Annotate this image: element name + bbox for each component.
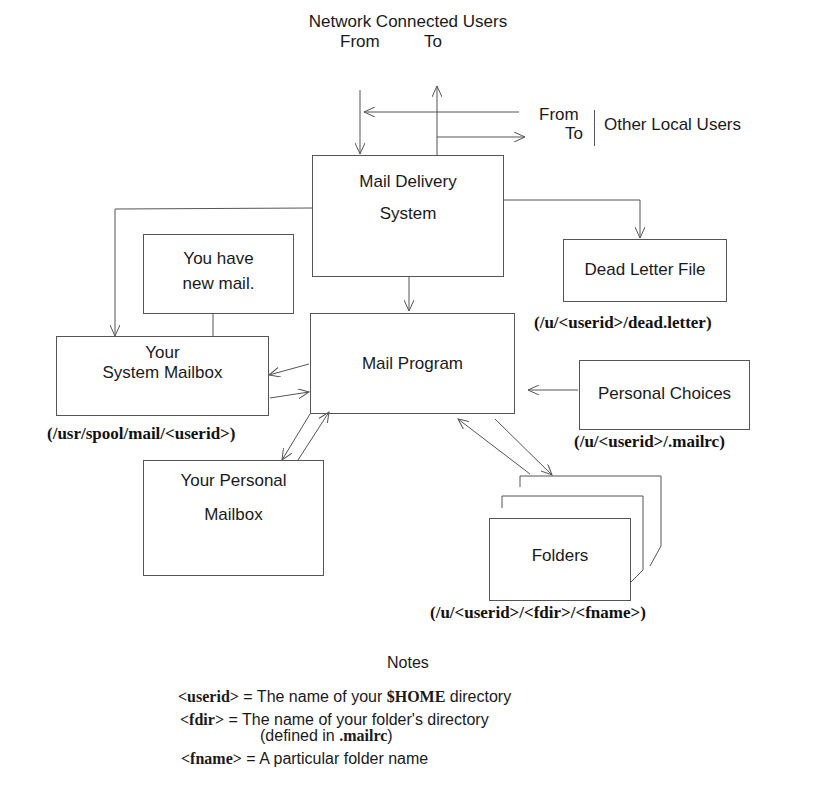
note-fname-desc: = A particular folder name: [242, 750, 428, 767]
system-mailbox-box: Your System Mailbox: [56, 336, 269, 416]
dead-letter-file-box: Dead Letter File: [563, 239, 727, 302]
note-userid-home: $HOME: [387, 688, 446, 705]
note-userid-term: <userid>: [178, 688, 239, 705]
network-to-label: To: [424, 32, 442, 52]
personal-choices-label: Personal Choices: [580, 384, 749, 404]
network-from-label: From: [340, 32, 380, 52]
note-fdir-term: <fdir>: [180, 711, 224, 728]
new-mail-notice-box: You have new mail.: [143, 234, 294, 314]
note-fdir-sub: (defined in .mailrc): [260, 727, 393, 745]
personal-mailbox-box: Your Personal Mailbox: [143, 460, 324, 576]
mail-delivery-line2: System: [313, 204, 503, 224]
personal-choices-path: (/u/<userid>/.mailrc): [574, 432, 725, 452]
system-mailbox-line2: System Mailbox: [57, 363, 268, 383]
system-mailbox-path: (/usr/spool/mail/<userid>): [47, 424, 235, 444]
note-fdir-sub-prefix: (defined in: [260, 727, 339, 744]
note-fname: <fname> = A particular folder name: [181, 750, 428, 768]
notes-title: Notes: [387, 653, 429, 673]
folders-box: Folders: [489, 518, 631, 601]
personal-mailbox-line2: Mailbox: [144, 505, 323, 525]
mail-program-label: Mail Program: [311, 354, 514, 374]
mail-delivery-system-box: Mail Delivery System: [312, 155, 504, 277]
dead-letter-label: Dead Letter File: [564, 260, 726, 280]
folders-label: Folders: [490, 546, 630, 566]
note-userid: <userid> = The name of your $HOME direct…: [178, 688, 511, 706]
note-userid-desc: = The name of your: [239, 688, 387, 705]
personal-mailbox-line1: Your Personal: [144, 471, 323, 491]
note-userid-rest: directory: [445, 688, 511, 705]
note-fname-term: <fname>: [181, 750, 242, 767]
local-users-divider: [594, 110, 595, 146]
local-from-label: From: [539, 105, 579, 125]
network-users-title: Network Connected Users: [288, 12, 528, 32]
new-mail-line1: You have: [144, 249, 293, 269]
system-mailbox-line1: Your: [57, 343, 268, 363]
personal-choices-box: Personal Choices: [579, 360, 750, 430]
local-to-label: To: [565, 124, 583, 144]
other-local-users-title: Other Local Users: [604, 115, 741, 135]
mail-program-box: Mail Program: [310, 313, 515, 414]
new-mail-line2: new mail.: [144, 274, 293, 294]
note-fdir-desc: = The name of your folder's directory: [224, 711, 489, 728]
folders-path: (/u/<userid>/<fdir>/<fname>): [430, 603, 646, 623]
note-fdir-sub-suffix: ): [387, 727, 392, 744]
mail-delivery-line1: Mail Delivery: [313, 172, 503, 192]
dead-letter-path: (/u/<userid>/dead.letter): [534, 313, 712, 333]
note-fdir-sub-mailrc: .mailrc: [339, 727, 387, 744]
